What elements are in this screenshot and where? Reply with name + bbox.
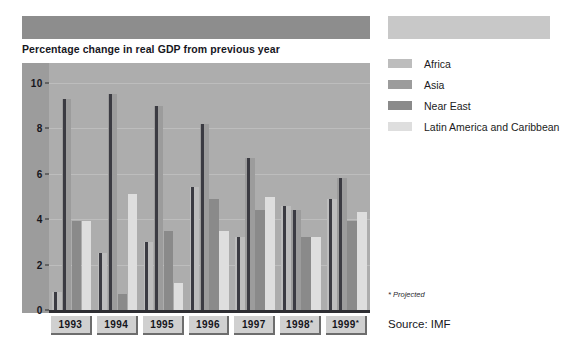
bar-latin-america-and-caribbean	[311, 237, 321, 310]
bar-africa	[54, 292, 57, 310]
footnote-projected: * Projected	[388, 290, 425, 299]
bar-near-east	[164, 231, 174, 310]
plot-area	[49, 63, 370, 313]
bar-group	[144, 80, 184, 310]
legend-swatch	[388, 101, 412, 110]
bar-asia	[339, 178, 342, 310]
legend-label: Asia	[424, 79, 444, 91]
x-axis-label: 1995	[143, 316, 184, 335]
bar-africa	[99, 253, 102, 310]
legend-swatch	[388, 122, 412, 131]
x-axis-label: 1998*	[280, 316, 321, 335]
bar-asia	[247, 158, 250, 310]
bar-africa	[191, 187, 194, 310]
legend-list: AfricaAsiaNear EastLatin America and Car…	[388, 54, 550, 138]
y-axis-tick-label: 4	[37, 214, 43, 225]
y-axis-tick-mark	[45, 173, 49, 174]
bar-near-east	[118, 294, 128, 310]
bar-africa	[283, 206, 286, 310]
y-axis-tick-label: 0	[37, 305, 43, 316]
legend-item: Africa	[388, 54, 550, 73]
bar-africa	[237, 237, 240, 310]
x-axis-label: 1993	[51, 316, 92, 335]
title-decoration-band	[22, 16, 370, 39]
y-axis-tick-label: 8	[37, 123, 43, 134]
y-axis-tick-mark	[45, 310, 49, 311]
bar-latin-america-and-caribbean	[357, 212, 367, 310]
bar-africa	[145, 242, 148, 310]
legend-swatch	[388, 59, 412, 68]
x-axis-labels: 199319941995199619971998*1999*	[49, 316, 370, 338]
x-axis-label: 1999*	[326, 316, 367, 335]
legend-label: Africa	[424, 58, 451, 70]
plot-wrapper: 0246810	[22, 63, 370, 313]
bar-near-east	[255, 210, 265, 310]
bar-group	[235, 80, 275, 310]
chart-figure: Percentage change in real GDP from previ…	[0, 0, 566, 362]
bar-group	[281, 80, 321, 310]
bar-near-east	[72, 221, 82, 310]
y-axis-tick-mark	[45, 128, 49, 129]
bar-asia	[201, 124, 204, 310]
bar-latin-america-and-caribbean	[82, 221, 92, 310]
bar-asia	[155, 106, 158, 310]
bar-near-east	[209, 199, 219, 310]
y-axis-tick-label: 2	[37, 259, 43, 270]
bar-group	[98, 80, 138, 310]
bar-asia	[109, 94, 112, 310]
bar-africa	[329, 199, 332, 310]
chart-panel: Percentage change in real GDP from previ…	[22, 16, 370, 351]
legend-item: Latin America and Caribbean	[388, 117, 550, 136]
bar-group	[52, 80, 92, 310]
legend-decoration-band	[388, 16, 550, 39]
bar-latin-america-and-caribbean	[219, 231, 229, 310]
bar-asia	[63, 99, 66, 310]
bar-group	[327, 80, 367, 310]
x-axis-label: 1996	[189, 316, 230, 335]
bar-near-east	[301, 237, 311, 310]
y-axis-tick-mark	[45, 219, 49, 220]
legend-item: Near East	[388, 96, 550, 115]
legend-swatch	[388, 80, 412, 89]
x-axis-label: 1994	[97, 316, 138, 335]
legend-label: Near East	[424, 100, 471, 112]
bar-group	[190, 80, 230, 310]
bar-latin-america-and-caribbean	[128, 194, 138, 310]
y-axis-gutter	[22, 63, 49, 313]
bar-near-east	[347, 221, 357, 310]
legend-panel: AfricaAsiaNear EastLatin America and Car…	[388, 16, 550, 351]
source-label: Source: IMF	[388, 318, 451, 330]
x-axis-baseline	[49, 310, 370, 313]
y-axis-tick-mark	[45, 83, 49, 84]
bar-asia	[293, 210, 296, 310]
legend-label: Latin America and Caribbean	[424, 121, 559, 133]
bar-latin-america-and-caribbean	[265, 197, 275, 311]
y-axis-tick-mark	[45, 264, 49, 265]
y-axis-tick-label: 6	[37, 168, 43, 179]
x-axis-label: 1997	[234, 316, 275, 335]
chart-title: Percentage change in real GDP from previ…	[22, 43, 370, 55]
y-axis-tick-label: 10	[31, 78, 43, 89]
legend-item: Asia	[388, 75, 550, 94]
bar-latin-america-and-caribbean	[174, 283, 184, 310]
